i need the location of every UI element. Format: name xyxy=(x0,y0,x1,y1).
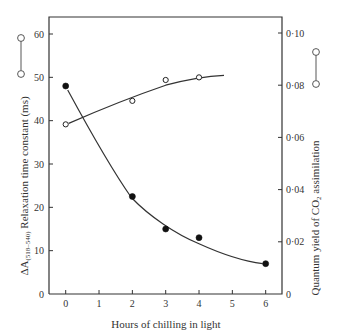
left-tick-label: 60 xyxy=(34,29,44,40)
x-tick-label: 0 xyxy=(63,298,68,309)
left-tick-label: 40 xyxy=(34,115,44,126)
right-tick-label: 0·02 xyxy=(286,236,304,247)
right-tick-label: 0 xyxy=(286,289,291,300)
filled-circle-point xyxy=(263,261,269,267)
open-circle-icon xyxy=(18,35,25,42)
x-tick-label: 4 xyxy=(197,298,202,309)
relaxation-fit-curve xyxy=(68,90,263,264)
x-axis-title: Hours of chilling in light xyxy=(111,318,220,330)
left-tick-label: 0 xyxy=(39,289,44,300)
x-tick-label: 1 xyxy=(97,298,102,309)
svg-text:Quantum yield of CO2 assimilat: Quantum yield of CO2 assimilation xyxy=(309,140,323,296)
x-axis: 0123456 xyxy=(63,290,268,309)
filled-circle-point xyxy=(63,83,69,89)
right-axis-title: Quantum yield of CO2 assimilation xyxy=(309,140,323,296)
x-tick-label: 6 xyxy=(263,298,268,309)
left-axis-title-main: ΔA xyxy=(18,261,30,276)
open-circle-point xyxy=(163,77,168,82)
filled-circle-point xyxy=(196,235,202,241)
filled-circle-point xyxy=(163,226,169,232)
svg-text:ΔA(518–540) Relaxation time co: ΔA(518–540) Relaxation time constant (ms… xyxy=(18,96,32,276)
right-legend-key xyxy=(313,49,320,88)
quantum-yield-fit-curve xyxy=(69,75,224,123)
right-axis-title-main: Quantum yield of CO xyxy=(309,200,321,296)
filled-circle-point xyxy=(129,194,135,200)
open-circle-icon xyxy=(313,49,320,56)
open-circle-point xyxy=(196,75,201,80)
right-tick-label: 0·10 xyxy=(286,28,304,39)
left-axis-title-sub: (518–540) xyxy=(24,231,32,261)
right-tick-label: 0·08 xyxy=(286,80,304,91)
fit-curves xyxy=(68,75,263,263)
right-tick-label: 0·04 xyxy=(286,184,304,195)
x-tick-label: 5 xyxy=(230,298,235,309)
data-points xyxy=(63,75,269,267)
right-axis-title-rest: assimilation xyxy=(309,140,321,196)
plot-frame xyxy=(49,17,282,294)
open-circle-point xyxy=(130,98,135,103)
left-legend-key xyxy=(18,35,25,78)
left-tick-label: 30 xyxy=(34,159,44,170)
left-axis-title: ΔA(518–540) Relaxation time constant (ms… xyxy=(18,96,32,276)
dual-axis-chart: 0102030405060 00·020·040·060·080·10 0123… xyxy=(0,0,337,336)
x-tick-label: 3 xyxy=(163,298,168,309)
left-axis-title-rest: Relaxation time constant (ms) xyxy=(18,96,31,231)
right-tick-label: 0·06 xyxy=(286,132,304,143)
axes-box xyxy=(49,17,282,294)
left-tick-label: 10 xyxy=(34,245,44,256)
left-tick-label: 50 xyxy=(34,72,44,83)
open-circle-point xyxy=(63,122,68,127)
left-y-axis: 0102030405060 xyxy=(34,29,53,300)
left-tick-label: 20 xyxy=(34,202,44,213)
open-circle-icon xyxy=(313,81,320,88)
open-circle-icon xyxy=(18,71,25,78)
x-tick-label: 2 xyxy=(130,298,135,309)
